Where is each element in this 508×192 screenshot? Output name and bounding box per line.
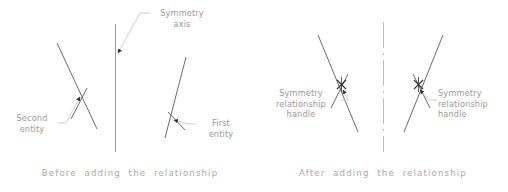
label-first-entity: First entity	[196, 118, 246, 139]
symmetry-relationship-figure: Symmetry axis Second entity First entity…	[0, 0, 508, 192]
label-symmetry-axis: Symmetry axis	[152, 8, 212, 29]
caption-before: Before adding the relationship	[30, 168, 230, 178]
second-entity-line	[57, 43, 97, 129]
figure-canvas	[0, 0, 508, 192]
caption-after: After adding the relationship	[283, 168, 483, 178]
label-second-entity: Second entity	[6, 113, 58, 134]
leader-second-entity	[58, 97, 80, 123]
label-symmetry-relationship-handle-left: Symmetry relationship handle	[259, 88, 343, 120]
leader-handle-right	[420, 90, 437, 100]
second-entity-cross-segment	[71, 88, 87, 119]
label-symmetry-relationship-handle-right: Symmetry relationship handle	[438, 88, 508, 120]
leader-symmetry-axis	[118, 13, 150, 53]
first-entity-line	[165, 57, 186, 138]
